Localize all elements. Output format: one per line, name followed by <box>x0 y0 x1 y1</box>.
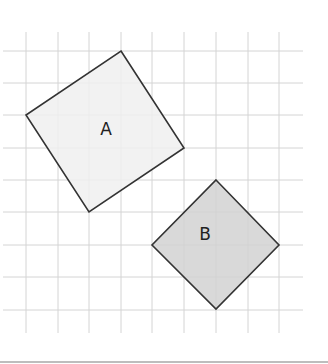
grid <box>3 32 303 333</box>
square-b <box>152 180 279 309</box>
square-a-label: A <box>100 119 112 139</box>
bottom-divider <box>0 361 328 363</box>
square-b-label: B <box>199 224 211 244</box>
grid-diagram: A B <box>0 0 328 364</box>
